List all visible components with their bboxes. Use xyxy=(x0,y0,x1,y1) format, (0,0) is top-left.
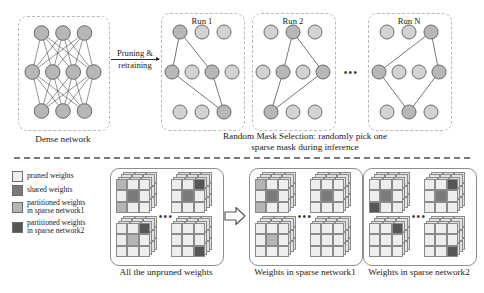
matrix-cell xyxy=(127,202,138,213)
matrix-cell xyxy=(435,234,446,245)
matrix-cell xyxy=(333,190,344,201)
weight-matrix xyxy=(424,172,465,213)
matrix-cell xyxy=(182,179,193,190)
matrix-cell xyxy=(435,179,446,190)
matrix-cell xyxy=(333,202,344,213)
legend-item: shared weights xyxy=(12,185,85,196)
matrix-cell xyxy=(424,223,435,234)
matrix-cell xyxy=(310,246,321,257)
matrix-front-layer xyxy=(171,179,205,213)
matrix-cell xyxy=(171,190,182,201)
matrix-front-layer xyxy=(116,179,150,213)
matrix-cell xyxy=(278,223,289,234)
matrix-cell xyxy=(182,246,193,257)
matrix-cell xyxy=(266,179,277,190)
matrix-cell xyxy=(380,223,391,234)
matrix-cell xyxy=(380,190,391,201)
sparse-network1-caption: Weights in sparse network1 xyxy=(254,267,356,279)
matrix-cell xyxy=(392,223,403,234)
matrix-cell xyxy=(171,223,182,234)
matrix-cell xyxy=(194,246,205,257)
matrix-cell xyxy=(424,179,435,190)
matrix-cell xyxy=(116,202,127,213)
matrix-cell xyxy=(310,234,321,245)
matrix-cell xyxy=(380,202,391,213)
matrix-cell xyxy=(266,202,277,213)
matrix-cell xyxy=(333,246,344,257)
matrix-front-layer xyxy=(424,223,458,257)
legend-label: pruned weights xyxy=(27,172,74,180)
matrix-cell xyxy=(116,246,127,257)
matrix-cell xyxy=(310,179,321,190)
matrix-cell xyxy=(392,179,403,190)
matrix-cell xyxy=(369,246,380,257)
matrix-cell xyxy=(435,223,446,234)
all-unpruned-weights-caption: All the unpruned weights xyxy=(119,267,212,279)
matrix-front-layer xyxy=(369,179,403,213)
weight-matrix xyxy=(116,216,157,257)
legend: pruned weightsshared weightspartitioned … xyxy=(12,171,85,239)
matrix-cell xyxy=(139,190,150,201)
matrix-cell xyxy=(369,179,380,190)
right-block-arrow-icon xyxy=(224,206,246,226)
weight-matrix xyxy=(171,172,212,213)
weight-matrix xyxy=(369,172,410,213)
matrix-cell xyxy=(171,246,182,257)
matrix-cell xyxy=(255,234,266,245)
matrix-cell xyxy=(139,202,150,213)
matrix-cell xyxy=(127,179,138,190)
matrix-cell xyxy=(182,202,193,213)
matrix-cell xyxy=(424,190,435,201)
matrix-cell xyxy=(266,190,277,201)
legend-item: partitioned weights in sparse network2 xyxy=(12,219,85,236)
matrix-cell xyxy=(182,190,193,201)
matrix-cell xyxy=(194,179,205,190)
random-mask-caption: Random Mask Selection: randomly pick one… xyxy=(223,131,387,153)
legend-swatch-icon xyxy=(12,202,23,213)
matrix-front-layer xyxy=(255,223,289,257)
legend-label: partitioned weights in sparse network1 xyxy=(27,199,85,216)
weight-matrix xyxy=(310,172,351,213)
matrix-ellipsis: ••• xyxy=(298,211,313,222)
matrix-front-layer xyxy=(424,179,458,213)
weight-matrix xyxy=(171,216,212,257)
matrix-cell xyxy=(435,190,446,201)
matrix-cell xyxy=(380,246,391,257)
weight-matrix xyxy=(255,172,296,213)
random-mask-caption-line1: Random Mask Selection: randomly pick one xyxy=(223,131,387,142)
matrix-cell xyxy=(424,234,435,245)
legend-item: partitioned weights in sparse network1 xyxy=(12,199,85,216)
matrix-cell xyxy=(194,202,205,213)
matrix-cell xyxy=(127,246,138,257)
matrix-cell xyxy=(392,202,403,213)
matrix-ellipsis: ••• xyxy=(159,211,174,222)
matrix-cell xyxy=(127,190,138,201)
random-mask-caption-line2: sparse mask during inference xyxy=(223,142,387,153)
weight-matrix xyxy=(310,216,351,257)
matrix-cell xyxy=(333,234,344,245)
matrix-cell xyxy=(278,246,289,257)
matrix-cell xyxy=(380,234,391,245)
matrix-cell xyxy=(194,190,205,201)
matrix-cell xyxy=(435,202,446,213)
section-divider xyxy=(14,157,470,159)
matrix-cell xyxy=(255,223,266,234)
matrix-cell xyxy=(447,179,458,190)
matrix-cell xyxy=(171,179,182,190)
matrix-cell xyxy=(127,223,138,234)
matrix-cell xyxy=(424,246,435,257)
matrix-cell xyxy=(392,234,403,245)
matrix-cell xyxy=(139,223,150,234)
matrix-cell xyxy=(447,234,458,245)
matrix-cell xyxy=(310,223,321,234)
matrix-cell xyxy=(278,202,289,213)
matrix-cell xyxy=(369,190,380,201)
matrix-cell xyxy=(116,223,127,234)
matrix-cell xyxy=(255,179,266,190)
matrix-cell xyxy=(369,234,380,245)
matrix-cell xyxy=(369,223,380,234)
legend-swatch-icon xyxy=(12,171,23,182)
matrix-cell xyxy=(139,234,150,245)
weight-matrix xyxy=(424,216,465,257)
matrix-cell xyxy=(321,179,332,190)
